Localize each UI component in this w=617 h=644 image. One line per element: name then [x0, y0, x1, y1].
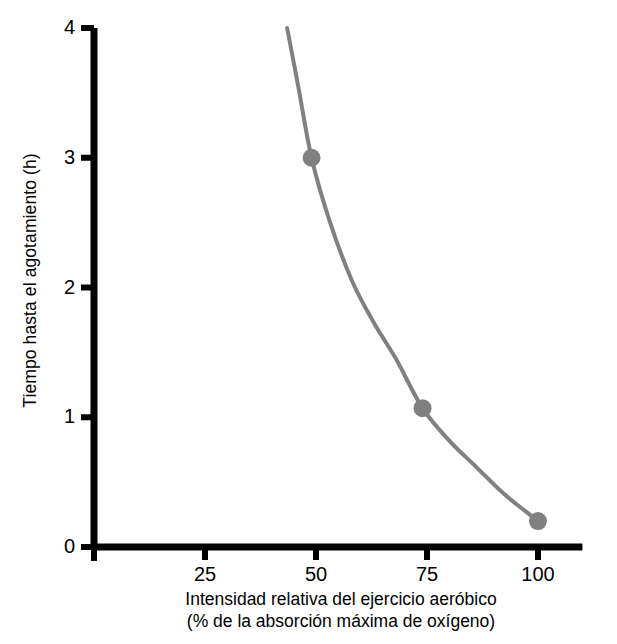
data-point-markers — [303, 149, 547, 530]
y-axis-title-container: Tiempo hasta el agotamiento (h) — [0, 0, 60, 560]
x-tick-label-75: 75 — [397, 564, 457, 584]
chart-figure: 01234 255075100 Tiempo hasta el agotamie… — [0, 0, 617, 644]
data-point-marker — [414, 399, 432, 417]
y-axis-title: Tiempo hasta el agotamiento (h) — [20, 153, 41, 407]
series-line-tiempo-agotamiento — [287, 28, 538, 521]
x-tick-label-25: 25 — [175, 564, 235, 584]
data-point-marker — [303, 149, 321, 167]
x-tick-label-100: 100 — [508, 564, 568, 584]
x-axis-title-line-2: (% de la absorción máxima de oxígeno) — [94, 610, 588, 632]
data-point-marker — [529, 512, 547, 530]
x-tick-label-50: 50 — [286, 564, 346, 584]
x-axis-title-line-1: Intensidad relativa del ejercicio aeróbi… — [94, 588, 588, 610]
x-axis-title-container: Intensidad relativa del ejercicio aeróbi… — [94, 588, 588, 633]
plot-area — [0, 0, 617, 644]
